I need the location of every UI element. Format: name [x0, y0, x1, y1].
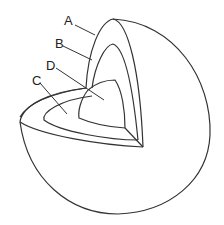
- leader-line-a: [75, 25, 95, 35]
- core-d-vertical: [88, 80, 125, 128]
- cut-face-left-top: [20, 88, 86, 117]
- layer-b-boundary-vertical: [92, 44, 138, 140]
- leader-line-b: [63, 46, 92, 60]
- earth-layers-diagram: A B D C: [0, 0, 224, 225]
- label-c: C: [32, 73, 41, 88]
- outer-sphere-outline: [20, 19, 210, 214]
- core-d-horizontal: [79, 90, 125, 128]
- label-d: D: [46, 58, 55, 73]
- label-a: A: [64, 13, 73, 28]
- label-b: B: [55, 36, 64, 51]
- center-convergence: [125, 128, 143, 147]
- layer-b-boundary-horizontal: [44, 96, 138, 140]
